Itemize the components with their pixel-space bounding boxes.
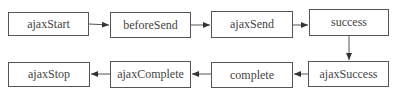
- node-ajaxcomplete: ajaxComplete: [110, 61, 191, 88]
- node-label: ajaxStop: [28, 67, 70, 82]
- node-success: success: [309, 9, 389, 36]
- node-label: complete: [230, 68, 274, 83]
- edge-ajaxstart-beforesend: [89, 24, 109, 25]
- node-complete: complete: [211, 62, 293, 88]
- node-ajaxstart: ajaxStart: [8, 12, 89, 36]
- node-label: ajaxComplete: [117, 67, 184, 82]
- node-label: ajaxStart: [27, 17, 70, 32]
- node-label: success: [331, 15, 367, 30]
- node-beforesend: beforeSend: [110, 12, 191, 38]
- node-ajaxstop: ajaxStop: [8, 62, 90, 87]
- node-label: ajaxSuccess: [320, 67, 378, 82]
- node-ajaxsend: ajaxSend: [211, 11, 293, 38]
- node-label: ajaxSend: [230, 17, 274, 32]
- node-label: beforeSend: [123, 18, 178, 33]
- node-ajaxsuccess: ajaxSuccess: [308, 61, 389, 87]
